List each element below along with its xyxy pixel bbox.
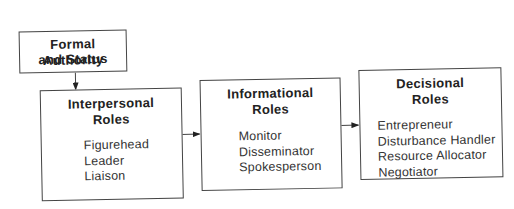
decisional-roles-box: Decisional Roles Entrepreneur Disturbanc…: [358, 67, 503, 180]
role-item: Resource Allocator: [378, 147, 496, 165]
formal-authority-box: Formal Authority and Status: [19, 29, 128, 73]
role-item: Leader: [84, 153, 150, 170]
role-item: Spokesperson: [239, 159, 322, 176]
interpersonal-title-line2: Roles: [41, 110, 181, 129]
informational-items: Monitor Disseminator Spokesperson: [238, 128, 321, 176]
role-item: Monitor: [238, 128, 321, 145]
decisional-items: Entrepreneur Disturbance Handler Resourc…: [377, 116, 496, 180]
role-item: Liaison: [84, 168, 150, 185]
formal-authority-title-line2: and Status: [20, 51, 126, 69]
diagram-canvas: Formal Authority and Status Interpersona…: [0, 0, 514, 209]
informational-title-line2: Roles: [201, 100, 340, 119]
role-item: Disseminator: [239, 143, 322, 160]
role-item: Figurehead: [84, 137, 150, 154]
informational-roles-box: Informational Roles Monitor Disseminator…: [200, 77, 343, 191]
interpersonal-roles-box: Interpersonal Roles Figurehead Leader Li…: [40, 87, 184, 201]
decisional-title-line2: Roles: [360, 90, 501, 109]
interpersonal-items: Figurehead Leader Liaison: [84, 137, 150, 185]
role-item: Negotiator: [378, 163, 496, 181]
